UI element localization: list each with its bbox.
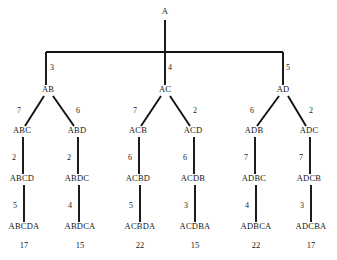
- node-label-adbc: ADBC: [242, 173, 267, 183]
- node-label-adb: ADB: [245, 125, 264, 135]
- node-label-acd: ACD: [184, 125, 203, 135]
- edge-cost-abc: 7: [17, 106, 21, 115]
- path-total-acbda: 22: [136, 240, 145, 250]
- node-label-ab: AB: [42, 84, 54, 94]
- node-label-acbd: ACBD: [126, 173, 150, 183]
- edge-cost-adbc: 7: [244, 153, 248, 162]
- edge-cost-adbca: 4: [245, 201, 249, 210]
- edge-cost-abdc: 2: [67, 153, 71, 162]
- path-total-acdba: 15: [191, 240, 200, 250]
- edge-cost-adcb: 7: [299, 153, 303, 162]
- edge-cost-acbd: 6: [128, 153, 132, 162]
- node-label-abdca: ABDCA: [65, 221, 96, 231]
- node-label-adcba: ADCBA: [296, 221, 327, 231]
- path-total-abdca: 15: [76, 240, 85, 250]
- edge-cost-adc: 2: [309, 106, 313, 115]
- edge-cost-acdb: 6: [183, 153, 187, 162]
- node-label-abdc: ABDC: [65, 173, 90, 183]
- diagram-background: [0, 0, 337, 260]
- path-total-adbca: 22: [252, 240, 261, 250]
- edge-cost-ad: 5: [286, 63, 290, 72]
- edge-cost-ab: 3: [50, 63, 54, 72]
- node-label-acdba: ACDBA: [180, 221, 211, 231]
- edge-cost-acdba: 3: [184, 201, 188, 210]
- path-total-abcda: 17: [20, 240, 29, 250]
- node-label-ac: AC: [159, 84, 171, 94]
- node-label-acb: ACB: [129, 125, 147, 135]
- node-label-abd: ABD: [68, 125, 87, 135]
- edge-cost-adcba: 3: [300, 201, 304, 210]
- path-total-adcba: 17: [307, 240, 316, 250]
- edge-cost-abcda: 5: [13, 201, 17, 210]
- node-label-adc: ADC: [300, 125, 319, 135]
- edge-cost-abcd: 2: [12, 153, 16, 162]
- node-label-ad: AD: [277, 84, 290, 94]
- node-label-abcd: ABCD: [10, 173, 34, 183]
- edge-cost-adb: 6: [250, 106, 254, 115]
- node-label-acdb: ACDB: [181, 173, 206, 183]
- edge-cost-acbda: 5: [129, 201, 133, 210]
- edge-cost-acd: 2: [193, 106, 197, 115]
- edge-cost-abd: 6: [76, 106, 80, 115]
- node-label-root: A: [162, 6, 169, 16]
- edge-cost-acb: 7: [133, 106, 137, 115]
- node-label-adbca: ADBCA: [241, 221, 272, 231]
- search-tree-diagram: AAB3AC4AD5ABC7ABD6ACB7ACD2ADB6ADC2ABCD2A…: [0, 0, 337, 260]
- node-label-abcda: ABCDA: [9, 221, 40, 231]
- node-label-adcb: ADCB: [297, 173, 322, 183]
- node-label-acbda: ACBDA: [125, 221, 156, 231]
- edge-cost-abdca: 4: [68, 201, 72, 210]
- edge-cost-ac: 4: [168, 63, 172, 72]
- node-label-abc: ABC: [13, 125, 31, 135]
